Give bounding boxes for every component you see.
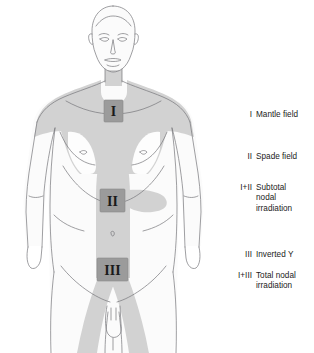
legend-label-inverted-y: Inverted Y [256,250,293,260]
field-legend: I Mantle field II Spade field I+II Subto… [232,0,314,353]
legend-key-i-plus-ii: I+II [232,183,256,193]
legend-label-total-nodal: Total nodal irradiation [256,271,296,292]
legend-entry-total-nodal: I+III Total nodal irradiation [232,271,296,292]
marker-numeral-III: III [104,263,120,278]
legend-key-ii: II [232,152,256,162]
legend-label-mantle: Mantle field [256,110,298,120]
legend-entry-subtotal-nodal: I+II Subtotal nodal irradiation [232,183,292,214]
legend-key-i-plus-iii: I+III [232,271,256,281]
marker-box-II: II [100,189,125,212]
legend-entry-spade: II Spade field [232,152,297,162]
legend-key-i: I [232,110,256,120]
marker-box-I: I [104,100,123,122]
marker-numeral-II: II [107,194,118,209]
right-hand [185,247,200,269]
legend-entry-mantle: I Mantle field [232,110,298,120]
marker-box-III: III [97,258,128,281]
legend-label-subtotal-nodal: Subtotal nodal irradiation [256,183,292,214]
legend-key-iii: III [232,250,256,260]
legend-label-spade: Spade field [256,152,297,162]
marker-numeral-I: I [111,104,116,119]
legend-entry-inverted-y: III Inverted Y [232,250,293,260]
left-hand [27,247,42,269]
